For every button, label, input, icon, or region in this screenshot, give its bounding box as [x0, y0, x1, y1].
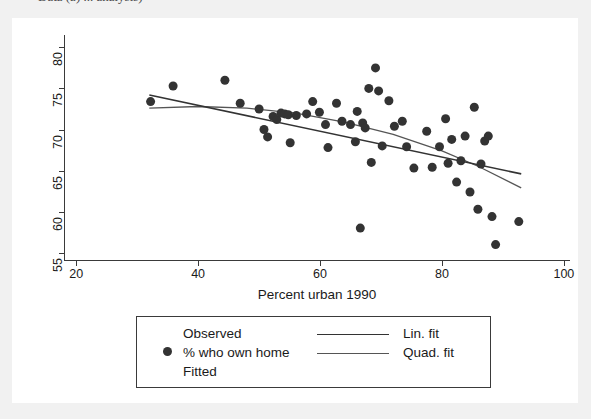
- scatter-point: [374, 86, 383, 95]
- scatter-point: [409, 164, 418, 173]
- scatter-point: [470, 103, 479, 112]
- x-tick-mark: [320, 261, 321, 266]
- scatter-point: [324, 143, 333, 152]
- scatter-point: [444, 159, 453, 168]
- y-tick-label: 70: [51, 128, 65, 156]
- scatter-point: [236, 99, 245, 108]
- scatter-point: [315, 108, 324, 117]
- scatter-point: [356, 224, 365, 233]
- legend-line-lin-fit: [317, 334, 389, 335]
- scatter-point: [402, 142, 411, 151]
- caption-text: Data (a) ... analysis): [38, 0, 143, 5]
- scatter-point: [428, 163, 437, 172]
- quad-fit-line: [149, 107, 521, 188]
- x-axis-label: Percent urban 1990: [64, 287, 570, 302]
- scatter-point: [514, 217, 523, 226]
- scatter-point: [361, 123, 370, 132]
- scatter-point: [447, 135, 456, 144]
- scatter-point: [351, 137, 360, 146]
- scatter-point: [384, 96, 393, 105]
- scatter-point: [346, 120, 355, 129]
- y-tick-label: 65: [51, 169, 65, 197]
- figure-caption-clipped: Data (a) ... analysis): [0, 0, 591, 11]
- scatter-point: [302, 109, 311, 118]
- scatter-point: [321, 120, 330, 129]
- legend-line-quad-fit: [317, 353, 389, 354]
- scatter-point: [477, 160, 486, 169]
- scatter-point: [367, 158, 376, 167]
- scatter-point: [286, 138, 295, 147]
- legend-label-quad-fit: Quad. fit: [403, 342, 454, 364]
- chart-legend: Observed % who own home Fitted Lin. fit …: [136, 316, 491, 388]
- scatter-point: [371, 63, 380, 72]
- scatter-plot-svg: [64, 35, 570, 261]
- scatter-point: [456, 156, 465, 165]
- scatter-point: [452, 178, 461, 187]
- x-tick-label: 100: [544, 267, 584, 281]
- scatter-point: [422, 127, 431, 136]
- scatter-point: [390, 122, 399, 131]
- x-tick-label: 60: [300, 267, 340, 281]
- x-tick-mark: [198, 261, 199, 266]
- scatter-point: [169, 82, 178, 91]
- scatter-point: [308, 97, 317, 106]
- scatter-point: [466, 188, 475, 197]
- scatter-point: [332, 99, 341, 108]
- scatter-point: [435, 142, 444, 151]
- scatter-point: [338, 117, 347, 126]
- legend-marker-dot: [163, 347, 172, 356]
- scatter-point: [441, 114, 450, 123]
- scatter-point: [364, 84, 373, 93]
- scatter-point: [255, 105, 264, 114]
- figure-canvas: 55606570758020406080100 Percent urban 19…: [12, 18, 578, 403]
- y-tick-label: 80: [51, 45, 65, 73]
- scatter-point: [398, 117, 407, 126]
- scatter-point: [353, 107, 362, 116]
- scatter-point: [378, 141, 387, 150]
- scatter-point: [461, 132, 470, 141]
- x-tick-label: 20: [56, 267, 96, 281]
- x-tick-label: 80: [422, 267, 462, 281]
- scatter-point: [146, 97, 155, 106]
- legend-fitted-header: Fitted: [183, 361, 217, 383]
- scatter-point: [263, 132, 272, 141]
- scatter-point: [220, 76, 229, 85]
- scatter-point: [284, 110, 293, 119]
- x-tick-label: 40: [178, 267, 218, 281]
- x-tick-mark: [442, 261, 443, 266]
- scatter-point: [484, 132, 493, 141]
- x-tick-mark: [76, 261, 77, 266]
- y-tick-label: 60: [51, 210, 65, 238]
- scatter-point: [491, 240, 500, 249]
- scatter-point: [473, 205, 482, 214]
- x-tick-mark: [564, 261, 565, 266]
- plot-area: 55606570758020406080100: [64, 35, 570, 261]
- scatter-point: [488, 212, 497, 221]
- y-tick-label: 75: [51, 86, 65, 114]
- scatter-point: [292, 111, 301, 120]
